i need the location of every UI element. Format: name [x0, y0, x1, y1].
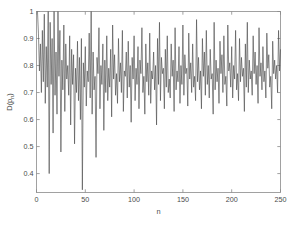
x-tick-label: 150 [177, 195, 189, 204]
chart-figure: 050100150200250 0.40.50.60.70.80.91 n D(… [0, 0, 294, 227]
x-tick-label: 0 [35, 195, 39, 204]
y-tick-label: 0.6 [24, 115, 34, 124]
x-tick-label: 250 [275, 195, 287, 204]
y-axis-title-text: D(pn) [5, 93, 15, 110]
y-tick-label: 0.8 [24, 61, 34, 70]
y-tick-label: 0.5 [24, 142, 34, 151]
x-axis-title: n [156, 207, 160, 216]
y-tick-label: 0.7 [24, 88, 34, 97]
y-tick-label: 0.9 [24, 34, 34, 43]
y-tick-label: 1 [30, 7, 34, 16]
x-axis-title-text: n [156, 207, 160, 216]
y-tick-label: 0.4 [24, 169, 34, 178]
y-axis-title: D(pn) [5, 93, 15, 110]
x-tick-label: 200 [226, 195, 238, 204]
x-tick-label: 100 [128, 195, 140, 204]
line-chart: 050100150200250 0.40.50.60.70.80.91 n D(… [0, 0, 294, 227]
x-tick-label: 50 [81, 195, 89, 204]
